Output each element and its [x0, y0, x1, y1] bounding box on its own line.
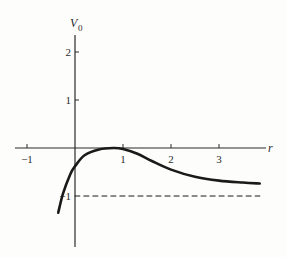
- chart: −112321−1 V 0 r: [0, 0, 287, 257]
- chart-svg: −112321−1 V 0 r: [0, 0, 287, 257]
- y-axis-label-subscript: 0: [78, 23, 83, 33]
- axes: −112321−1: [15, 35, 266, 247]
- x-tick-label: −1: [21, 153, 33, 165]
- y-tick-label: 2: [66, 46, 72, 58]
- x-tick-label: 2: [168, 153, 174, 165]
- y-tick-label: 1: [66, 94, 72, 106]
- potential-curve: [58, 148, 260, 213]
- x-tick-label: 1: [120, 153, 126, 165]
- x-tick-label: 3: [216, 153, 222, 165]
- x-axis-label: r: [268, 141, 273, 155]
- plot-area: [58, 148, 260, 213]
